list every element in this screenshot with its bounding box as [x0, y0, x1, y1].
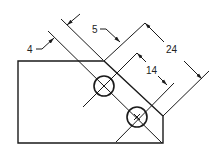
dim-spacing-arrow	[67, 14, 80, 25]
hole2-crossline	[116, 83, 174, 142]
dim-24-label: 24	[166, 44, 178, 55]
dim-24-line-a	[145, 23, 164, 42]
dim-4-leader	[36, 38, 54, 49]
dim-24-line-b	[184, 61, 202, 79]
dim-4-label: 4	[27, 44, 33, 55]
technical-drawing: 24 14 5 4	[0, 0, 219, 155]
dim-14-line-a	[137, 53, 146, 62]
dim-5-leader	[100, 29, 120, 42]
dim-14-line-b	[158, 76, 167, 85]
hole-1-center-mark	[101, 83, 107, 89]
extension-line-chamfer-bottom	[163, 71, 209, 116]
dim-14-label: 14	[146, 65, 158, 76]
dim-5-label: 5	[92, 24, 98, 35]
